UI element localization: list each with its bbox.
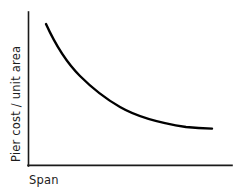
y-axis-label: Pier cost / unit area [9, 46, 23, 162]
cost-curve [46, 24, 212, 129]
plot-canvas: Pier cost / unit area Span [0, 0, 247, 195]
x-axis-label: Span [29, 173, 59, 187]
chart-figure: Pier cost / unit area Span [0, 0, 247, 195]
